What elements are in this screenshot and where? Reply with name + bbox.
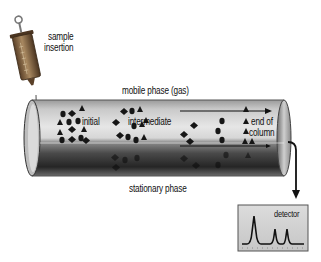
mobile-phase-label: mobile phase (gas)	[122, 86, 189, 96]
sample-insertion-label-line1: sample	[48, 32, 73, 42]
end-of-column-label-line1: end of	[251, 117, 273, 127]
gc-diagram: sample insertion mobile phase (gas) init…	[0, 0, 321, 262]
end-of-column-label-line2: column	[249, 128, 274, 138]
initial-label: initial	[82, 117, 100, 127]
detector-label: detector	[274, 209, 299, 219]
stationary-phase-label: stationary phase	[129, 184, 187, 194]
intermediate-label: intermediate	[128, 117, 171, 127]
sample-insertion-label-line2: insertion	[44, 43, 74, 53]
